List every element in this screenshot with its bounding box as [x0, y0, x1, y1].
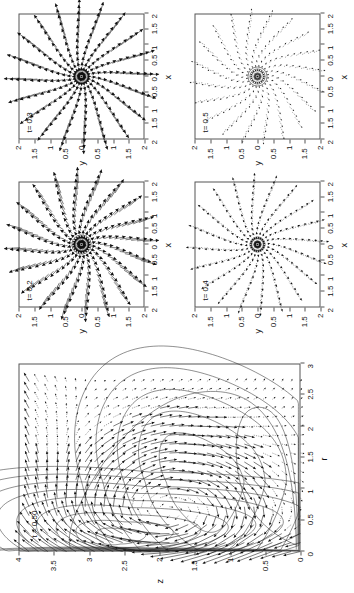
panel-yticklabel[interactable]: 0.5: [93, 316, 101, 327]
panel-yaxis-label[interactable]: y: [253, 161, 262, 166]
main-xticklabel[interactable]: 2.5: [306, 388, 314, 399]
panel-yticklabel[interactable]: 1: [46, 313, 54, 317]
panel-ytick[interactable]: [273, 307, 274, 311]
panel-xtick[interactable]: [320, 196, 324, 197]
panel-xticklabel[interactable]: 1.5: [150, 23, 158, 34]
panel-xtick[interactable]: [144, 196, 148, 197]
panel-xticklabel[interactable]: 1.5: [326, 191, 334, 202]
panel-yticklabel[interactable]: 0.5: [269, 148, 277, 159]
panel-xticklabel[interactable]: 2: [326, 14, 334, 18]
panel-ytick[interactable]: [241, 307, 242, 311]
panel-xticklabel[interactable]: 1: [326, 108, 334, 112]
panel-ytick[interactable]: [81, 307, 82, 311]
panel-yticklabel[interactable]: 0.5: [237, 316, 245, 327]
panel-yaxis-label[interactable]: y: [77, 161, 86, 166]
panel-yticklabel[interactable]: 1: [222, 313, 230, 317]
vector-panel-t05[interactable]: 21.510.500.511.5221.510.500.511.52xyt= 0…: [184, 9, 352, 169]
panel-xtick[interactable]: [144, 75, 148, 76]
panel-xtick[interactable]: [320, 180, 324, 181]
panel-ytick[interactable]: [257, 139, 258, 143]
panel-xtick[interactable]: [320, 212, 324, 213]
panel-ytick[interactable]: [241, 139, 242, 143]
panel-xtick[interactable]: [320, 227, 324, 228]
panel-key[interactable]: t= 0.3: [25, 112, 33, 132]
vector-panel-t04[interactable]: 21.510.500.511.5221.510.500.511.52xyt= 0…: [184, 177, 352, 337]
panel-xticklabel[interactable]: 2: [326, 308, 334, 312]
panel-xtick[interactable]: [144, 227, 148, 228]
panel-xticklabel[interactable]: 1.5: [150, 191, 158, 202]
panel-xtick[interactable]: [144, 290, 148, 291]
panel-xticklabel[interactable]: 2: [150, 14, 158, 18]
panel-xtick[interactable]: [320, 259, 324, 260]
panel-xticklabel[interactable]: 1: [150, 213, 158, 217]
panel-xtick[interactable]: [144, 107, 148, 108]
panel-ytick[interactable]: [194, 139, 195, 143]
main-xticklabel[interactable]: 1: [306, 489, 314, 493]
main-ytick[interactable]: [159, 551, 160, 555]
panel-yticklabel[interactable]: 1: [109, 313, 117, 317]
main-xtick[interactable]: [300, 393, 304, 394]
panel-ytick[interactable]: [320, 307, 321, 311]
panel-ytick[interactable]: [50, 139, 51, 143]
panel-yticklabel[interactable]: 1.5: [124, 316, 132, 327]
panel-xticklabel[interactable]: 0: [326, 77, 334, 81]
panel-yticklabel[interactable]: 1: [222, 145, 230, 149]
panel-ytick[interactable]: [113, 307, 114, 311]
panel-ytick[interactable]: [81, 139, 82, 143]
panel-yticklabel[interactable]: 0: [77, 313, 85, 317]
panel-xaxis-label[interactable]: x: [339, 243, 348, 248]
panel-xticklabel[interactable]: 0.5: [326, 254, 334, 265]
panel-yticklabel[interactable]: 1.5: [30, 148, 38, 159]
panel-xticklabel[interactable]: 1.5: [326, 285, 334, 296]
panel-xtick[interactable]: [144, 122, 148, 123]
panel-xtick[interactable]: [320, 12, 324, 13]
panel-yticklabel[interactable]: 2: [316, 313, 324, 317]
panel-xticklabel[interactable]: 2: [150, 182, 158, 186]
panel-xtick[interactable]: [320, 91, 324, 92]
panel-ytick[interactable]: [18, 139, 19, 143]
vector-panel-t02[interactable]: 21.510.500.511.5221.510.500.511.52xyt= 0…: [8, 177, 176, 337]
panel-xtick[interactable]: [320, 107, 324, 108]
panel-xtick[interactable]: [144, 180, 148, 181]
main-xtick[interactable]: [300, 425, 304, 426]
panel-xticklabel[interactable]: 1.5: [150, 117, 158, 128]
main-xticklabel[interactable]: 0: [306, 552, 314, 556]
main-yticklabel[interactable]: 2: [155, 557, 163, 561]
panel-yticklabel[interactable]: 1: [285, 313, 293, 317]
panel-xticklabel[interactable]: 1: [326, 213, 334, 217]
panel-yticklabel[interactable]: 0.5: [61, 316, 69, 327]
panel-yticklabel[interactable]: 1: [285, 145, 293, 149]
panel-ytick[interactable]: [304, 139, 305, 143]
panel-ytick[interactable]: [97, 139, 98, 143]
panel-yticklabel[interactable]: 1.5: [300, 148, 308, 159]
panel-key[interactable]: t= 0.2: [25, 280, 33, 300]
panel-xticklabel[interactable]: 0.5: [326, 86, 334, 97]
panel-xtick[interactable]: [144, 275, 148, 276]
panel-ytick[interactable]: [226, 307, 227, 311]
main-ytick[interactable]: [230, 551, 231, 555]
panel-xticklabel[interactable]: 2: [326, 140, 334, 144]
panel-ytick[interactable]: [194, 307, 195, 311]
panel-xtick[interactable]: [320, 75, 324, 76]
panel-xticklabel[interactable]: 1.5: [150, 285, 158, 296]
panel-xticklabel[interactable]: 0: [326, 245, 334, 249]
main-yticklabel[interactable]: 3.5: [49, 560, 57, 571]
panel-xticklabel[interactable]: 0.5: [150, 222, 158, 233]
main-yticklabel[interactable]: 0: [296, 557, 304, 561]
main-yticklabel[interactable]: 4: [14, 557, 22, 561]
panel-yticklabel[interactable]: 2: [14, 145, 22, 149]
panel-xtick[interactable]: [144, 28, 148, 29]
panel-ytick[interactable]: [289, 307, 290, 311]
panel-yticklabel[interactable]: 0: [253, 145, 261, 149]
main-ytick[interactable]: [300, 551, 301, 555]
panel-ytick[interactable]: [144, 139, 145, 143]
main-yticklabel[interactable]: 3: [85, 557, 93, 561]
main-ytick[interactable]: [124, 551, 125, 555]
panel-ytick[interactable]: [273, 139, 274, 143]
main-xticklabel[interactable]: 3: [306, 364, 314, 368]
panel-key[interactable]: t= 0.5: [201, 112, 209, 132]
panel-xticklabel[interactable]: 1.5: [326, 23, 334, 34]
panel-xtick[interactable]: [144, 12, 148, 13]
main-yticklabel[interactable]: 0.5: [261, 560, 269, 571]
panel-xtick[interactable]: [320, 243, 324, 244]
